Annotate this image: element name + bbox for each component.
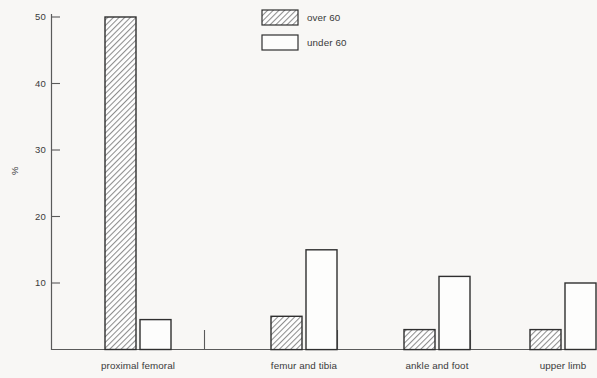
x-tick-label-femur-and-tibia: femur and tibia <box>244 360 364 371</box>
x-tick-label-ankle-and-foot: ankle and foot <box>377 360 497 371</box>
bar-chart-figure: 50 40 30 20 10 % proximal femoral femur … <box>0 0 597 378</box>
y-tick-label-20: 20 <box>20 212 46 222</box>
chart-canvas <box>0 0 597 378</box>
bar-over-60 <box>530 330 561 350</box>
y-tick-label-50: 50 <box>20 12 46 22</box>
bar-under-60 <box>140 320 171 350</box>
x-tick-label-upper-limb: upper limb <box>503 360 597 371</box>
bar-under-60 <box>439 276 470 349</box>
legend-label-over-60: over 60 <box>307 12 340 23</box>
x-tick-label-proximal-femoral: proximal femoral <box>78 360 198 371</box>
legend-label-under-60: under 60 <box>307 37 346 48</box>
y-axis-title: % <box>9 166 20 175</box>
bar-under-60 <box>565 283 596 350</box>
bar-over-60 <box>105 17 136 350</box>
y-tick-label-40: 40 <box>20 79 46 89</box>
bar-under-60 <box>306 250 337 350</box>
y-tick-label-30: 30 <box>20 145 46 155</box>
legend-swatch-white <box>262 35 298 50</box>
legend-swatch-hatched <box>262 10 298 25</box>
y-tick-label-10: 10 <box>20 278 46 288</box>
bar-over-60 <box>271 316 302 349</box>
bar-over-60 <box>404 330 435 350</box>
